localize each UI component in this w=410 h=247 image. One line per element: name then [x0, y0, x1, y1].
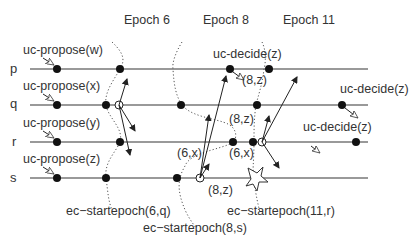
- event-p-decide: [226, 65, 234, 73]
- process-p-label: p: [10, 61, 17, 76]
- msg-s-to-p-e8: [200, 76, 226, 178]
- msg-label-r-6x-left: (6,x): [177, 146, 202, 160]
- process-r-label: r: [12, 134, 17, 149]
- epoch-6-label: Epoch 6: [124, 13, 170, 27]
- event-q-epoch8: [177, 101, 185, 109]
- decide-p-label: uc-decide(z): [213, 47, 282, 61]
- process-q-label: q: [10, 96, 17, 111]
- msg-r-to-s-e11: [262, 142, 279, 168]
- event-q-decide: [338, 101, 346, 109]
- event-propose-r: [53, 138, 61, 146]
- event-propose-q: [53, 101, 61, 109]
- decide-arrow-r: [311, 146, 320, 153]
- event-s-epoch8: [173, 174, 181, 182]
- event-propose-p: [53, 65, 61, 73]
- event-r-epoch6: [116, 138, 124, 146]
- propose-p-label: uc-propose(w): [23, 43, 103, 57]
- decide-r-label: uc-decide(z): [303, 120, 372, 134]
- msg-r-to-q-e11: [262, 116, 269, 142]
- propose-s-label: uc-propose(z): [23, 152, 100, 166]
- propose-arrow-p: [43, 58, 54, 65]
- event-q-epoch11: [253, 101, 261, 109]
- propose-r-label: uc-propose(y): [23, 116, 100, 130]
- crash-star-icon: [246, 167, 268, 191]
- epoch-consensus-diagram: Epoch 6 Epoch 8 Epoch 11 p q r s uc-prop…: [0, 0, 410, 247]
- event-p-epoch11: [265, 65, 273, 73]
- msg-label-q-8z: (8,z): [229, 112, 254, 126]
- process-s-label: s: [10, 170, 17, 185]
- propose-arrow-q: [43, 94, 54, 101]
- startepoch-11-label: ec−startepoch(11,r): [227, 204, 335, 218]
- event-propose-s: [53, 174, 61, 182]
- msg-label-p-8z: (8,z): [242, 73, 267, 87]
- msg-label-s-8z: (8,z): [208, 183, 233, 197]
- msg-q-to-s-e6: [119, 105, 130, 155]
- msg-label-r-6x-right: (6,x): [229, 146, 254, 160]
- startepoch-8-label: ec−startepoch(8,s): [143, 221, 247, 235]
- decide-q-label: uc-decide(z): [340, 82, 409, 96]
- epoch-8-label: Epoch 8: [203, 13, 249, 27]
- event-r-epoch11: [249, 138, 257, 146]
- event-s-epoch6: [102, 174, 110, 182]
- event-q-epoch6: [102, 101, 110, 109]
- event-p-epoch6: [116, 65, 124, 73]
- propose-arrow-r: [43, 131, 54, 138]
- propose-arrow-s: [43, 167, 54, 174]
- epoch-11-label: Epoch 11: [283, 13, 335, 27]
- decide-arrow-q: [345, 108, 358, 118]
- startepoch-6-label: ec−startepoch(6,q): [66, 204, 171, 218]
- event-r-decide: [352, 138, 360, 146]
- msg-q-to-p-e6: [119, 79, 127, 105]
- propose-q-label: uc-propose(x): [23, 79, 100, 93]
- event-r-epoch8: [229, 138, 237, 146]
- msg-r-to-p-e11: [262, 77, 297, 142]
